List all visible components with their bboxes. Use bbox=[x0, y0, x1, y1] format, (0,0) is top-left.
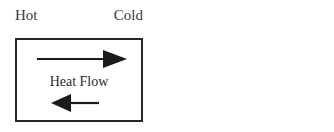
panel-hot-cold: Hot Cold Heat Flow bbox=[0, 0, 167, 132]
panel-same-temperature: Same Temperature Heat Flow bbox=[167, 0, 334, 132]
heat-flow-caption: Heat Flow bbox=[17, 74, 141, 90]
temperature-end-labels: Hot Cold bbox=[15, 6, 143, 26]
heat-flow-arrow-right-icon bbox=[37, 52, 127, 66]
heat-flow-arrow-left-icon bbox=[51, 96, 99, 110]
heat-flow-box-hot-cold: Heat Flow bbox=[15, 38, 143, 122]
hot-label: Hot bbox=[15, 6, 38, 24]
cold-label: Cold bbox=[114, 6, 143, 24]
